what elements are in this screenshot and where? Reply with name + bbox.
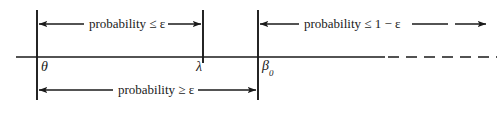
annotation-label-lower: probability ≥ ε xyxy=(115,83,197,96)
tick-label-theta: θ xyxy=(41,60,48,74)
probability-interval-diagram: probability ≤ ε probability ≤ 1 − ε prob… xyxy=(0,0,501,114)
tick-label-lambda: λ xyxy=(196,60,202,74)
diagram-canvas xyxy=(0,0,501,114)
annotation-label-upper-left: probability ≤ ε xyxy=(86,17,168,30)
annotation-label-upper-right: probability ≤ 1 − ε xyxy=(301,17,403,30)
tick-label-beta: β0 xyxy=(262,59,273,76)
tick-label-lambda-symbol: λ xyxy=(196,59,202,74)
tick-label-theta-symbol: θ xyxy=(41,59,48,74)
tick-label-beta-symbol: β xyxy=(262,58,269,73)
tick-label-beta-subscript: 0 xyxy=(269,68,274,78)
